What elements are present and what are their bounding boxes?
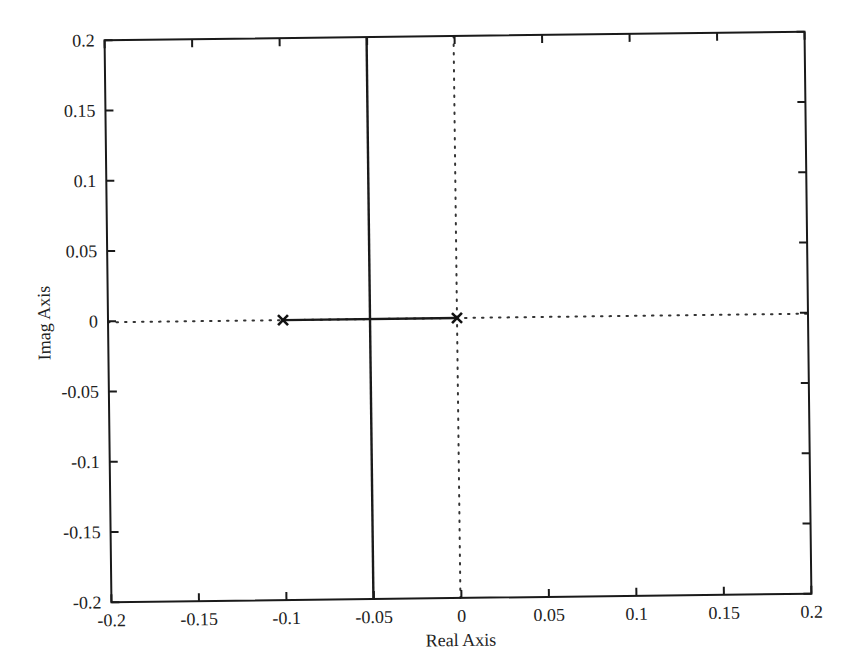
x-tick-label: -0.1 [272, 608, 301, 628]
x-tick-labels: -0.2-0.15-0.1-0.0500.050.10.150.2 [97, 602, 823, 631]
y-tick-label: 0.15 [64, 101, 96, 121]
y-tick-label: -0.15 [63, 522, 101, 542]
y-tick-label: 0 [89, 311, 98, 331]
y-tick-label: -0.2 [73, 592, 102, 612]
y-tick-labels: 0.20.150.10.050-0.05-0.1-0.15-0.2 [57, 30, 102, 612]
x-tick-label: 0.05 [533, 605, 565, 625]
y-tick-label: -0.05 [61, 382, 99, 402]
root-locus-chart: -0.2-0.15-0.1-0.0500.050.10.150.2 0.20.1… [0, 0, 849, 671]
x-tick-label: -0.05 [355, 607, 393, 627]
x-tick-label: 0.2 [800, 602, 823, 622]
x-tick-label: 0 [457, 606, 466, 626]
plot-group: -0.2-0.15-0.1-0.0500.050.10.150.2 0.20.1… [30, 22, 823, 656]
x-tick-label: 0.1 [625, 604, 648, 624]
y-tick-label: 0.1 [74, 171, 97, 191]
x-tick-label: 0.15 [708, 603, 740, 623]
y-tick-label: -0.1 [71, 452, 100, 472]
y-tick-label: 0.2 [72, 30, 95, 50]
x-tick-label: -0.15 [180, 609, 218, 629]
x-axis-title: Real Axis [426, 630, 497, 651]
y-axis-title: Imag Axis [34, 286, 55, 361]
y-tick-label: 0.05 [66, 241, 98, 261]
x-tick-label: -0.2 [97, 610, 126, 630]
